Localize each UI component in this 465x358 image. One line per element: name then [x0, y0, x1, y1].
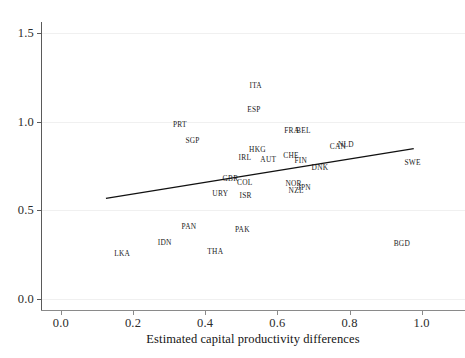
data-point-label: CAN — [330, 142, 346, 151]
x-tick-mark — [350, 310, 351, 315]
x-tick-label: 0.4 — [197, 316, 213, 331]
scatter-chart: 0.00.51.01.50.00.20.40.60.81.0ITAESPPRTF… — [0, 0, 465, 358]
x-tick-label: 0.6 — [269, 316, 285, 331]
data-point-label: ITA — [249, 81, 261, 90]
data-point-label: AUT — [260, 155, 276, 164]
gridline-y — [41, 33, 465, 34]
x-tick-label: 1.0 — [414, 316, 430, 331]
gridline-y — [41, 299, 465, 300]
y-tick-mark — [37, 33, 42, 34]
data-point-label: GBR — [222, 173, 238, 182]
data-point-label: PAK — [235, 225, 250, 234]
data-point-label: BGD — [394, 238, 410, 247]
data-point-label: NZL — [289, 185, 304, 194]
y-tick-label: 1.0 — [18, 114, 34, 129]
gridline-y — [41, 210, 465, 211]
x-tick-mark — [133, 310, 134, 315]
x-tick-mark — [277, 310, 278, 315]
data-point-label: BEL — [296, 126, 311, 135]
data-point-label: THA — [207, 246, 223, 255]
x-tick-mark — [61, 310, 62, 315]
y-tick-mark — [37, 210, 42, 211]
y-tick-mark — [37, 299, 42, 300]
data-point-label: DNK — [312, 162, 329, 171]
data-point-label: COL — [237, 178, 253, 187]
regression-fit-line — [41, 22, 465, 310]
x-axis-line — [41, 310, 465, 311]
x-tick-mark — [205, 310, 206, 315]
y-tick-mark — [37, 122, 42, 123]
y-tick-label: 0.5 — [18, 203, 34, 218]
x-axis-title: Estimated capital productivity differenc… — [41, 332, 465, 347]
gridline-y — [41, 122, 465, 123]
data-point-label: ISR — [239, 190, 251, 199]
data-point-label: PAN — [182, 222, 197, 231]
data-point-label: PRT — [173, 120, 187, 129]
x-tick-label: 0.2 — [125, 316, 141, 331]
data-point-label: ESP — [247, 104, 261, 113]
data-point-label: IDN — [158, 237, 172, 246]
data-point-label: LKA — [114, 248, 130, 257]
data-point-label: SWE — [404, 158, 420, 167]
y-tick-label: 1.5 — [18, 25, 34, 40]
x-tick-label: 0.8 — [341, 316, 357, 331]
plot-area: 0.00.51.01.50.00.20.40.60.81.0ITAESPPRTF… — [41, 22, 465, 310]
x-tick-label: 0.0 — [53, 316, 69, 331]
clipped-title-strip — [0, 0, 465, 9]
data-point-label: SGP — [185, 135, 199, 144]
data-point-label: IRL — [239, 153, 252, 162]
data-point-label: URY — [212, 188, 228, 197]
data-point-label: FIN — [294, 155, 307, 164]
y-tick-label: 0.0 — [18, 292, 34, 307]
data-point-label: HKG — [249, 145, 266, 154]
x-tick-mark — [422, 310, 423, 315]
